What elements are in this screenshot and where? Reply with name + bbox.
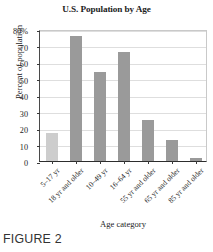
y-axis-tick-label: 40 <box>0 93 28 102</box>
y-axis-tick-mark <box>37 97 40 98</box>
y-axis-tick-mark <box>37 64 40 65</box>
y-axis-tick-mark <box>37 80 40 81</box>
y-axis-tick-label: 30 <box>0 109 28 118</box>
y-axis-tick-label: 10 <box>0 142 28 151</box>
bar-2 <box>70 36 82 161</box>
y-axis-tick-mark <box>37 163 40 164</box>
x-axis-tick-mark <box>100 161 101 164</box>
bar-5 <box>142 120 154 161</box>
y-axis-tick-label: 0 <box>0 159 28 168</box>
y-axis-tick-mark <box>37 31 40 32</box>
x-axis-tick-mark <box>124 161 125 164</box>
x-axis-title: Age category <box>39 219 207 229</box>
y-axis-tick-label: 70 <box>0 43 28 52</box>
chart-title: U.S. Population by Age <box>0 4 213 14</box>
x-axis-tick-mark <box>148 161 149 164</box>
plot-area: 01020304050607080% <box>39 30 207 162</box>
x-axis-tick-mark <box>76 161 77 164</box>
bar-4 <box>118 52 130 161</box>
x-axis-tick-mark <box>172 161 173 164</box>
gridline <box>40 47 206 48</box>
y-axis-tick-mark <box>37 146 40 147</box>
y-axis-tick-label: 20 <box>0 126 28 135</box>
y-axis-tick-mark <box>37 113 40 114</box>
y-axis-tick-mark <box>37 130 40 131</box>
bar-1 <box>46 133 58 161</box>
y-axis-tick-label: 80% <box>0 27 28 36</box>
x-axis-tick-labels: 5–17 yr18 yr and older10–49 yr16–64 yr55… <box>39 166 207 218</box>
y-axis-tick-label: 50 <box>0 76 28 85</box>
x-axis-tick-mark <box>52 161 53 164</box>
gridline <box>40 31 206 32</box>
bar-3 <box>94 72 106 161</box>
x-axis-tick-mark <box>196 161 197 164</box>
y-axis-tick-mark <box>37 47 40 48</box>
figure-caption: FIGURE 2 <box>3 232 62 246</box>
bar-6 <box>166 140 178 161</box>
y-axis-tick-label: 60 <box>0 60 28 69</box>
figure-container: U.S. Population by Age Percent of popula… <box>0 0 213 252</box>
